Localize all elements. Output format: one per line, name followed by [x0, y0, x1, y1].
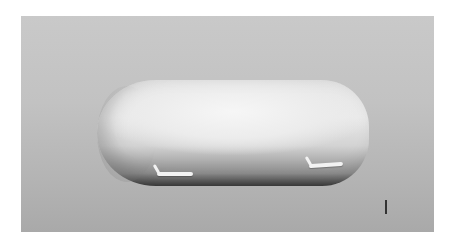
render-panel [21, 16, 434, 232]
hull-nose-shading [97, 86, 157, 182]
front-skid [157, 172, 193, 176]
small-dark-mark [385, 200, 387, 214]
